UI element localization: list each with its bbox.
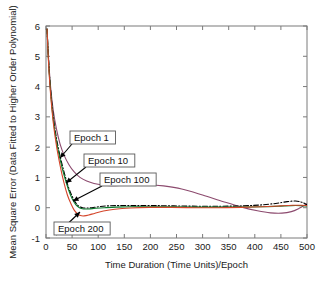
x-tick-label: 450 <box>273 241 289 252</box>
y-tick-label: 0 <box>35 202 40 213</box>
y-tick-label: -1 <box>32 233 40 244</box>
annotation-label: Epoch 100 <box>104 174 149 185</box>
x-tick-label: 250 <box>169 241 185 252</box>
x-tick-label: 0 <box>43 241 48 252</box>
y-tick-label: 5 <box>35 51 40 62</box>
annotation-label: Epoch 10 <box>88 155 128 166</box>
mse-line-chart: 050100150200250300350400450500-10123456 … <box>0 0 328 288</box>
y-axis-title: Mean Square Error (Data Fitted to Higher… <box>7 5 18 258</box>
annotation-label: Epoch 1 <box>74 132 109 143</box>
x-tick-label: 350 <box>221 241 237 252</box>
y-tick-label: 6 <box>35 21 40 32</box>
y-tick-label: 3 <box>35 111 40 122</box>
series-line-epoch-1 <box>47 29 307 213</box>
x-tick-label: 100 <box>90 241 106 252</box>
annotation-label: Epoch 200 <box>58 223 103 234</box>
x-tick-label: 50 <box>67 241 78 252</box>
annotations-layer: Epoch 1Epoch 10Epoch 100Epoch 200 <box>54 131 156 235</box>
x-tick-label: 500 <box>299 241 315 252</box>
x-tick-label: 400 <box>247 241 263 252</box>
y-tick-label: 4 <box>35 81 40 92</box>
y-tick-label: 1 <box>35 172 40 183</box>
series-line-epoch-100 <box>47 29 307 209</box>
curves-layer <box>47 29 307 216</box>
y-tick-label: 2 <box>35 142 40 153</box>
axis-labels-layer: Time Duration (Time Units)/EpochMean Squ… <box>7 5 248 270</box>
x-axis-title: Time Duration (Time Units)/Epoch <box>105 259 248 270</box>
figure-container: 050100150200250300350400450500-10123456 … <box>0 0 328 288</box>
x-tick-label: 150 <box>116 241 132 252</box>
x-tick-label: 200 <box>142 241 158 252</box>
x-tick-label: 300 <box>195 241 211 252</box>
